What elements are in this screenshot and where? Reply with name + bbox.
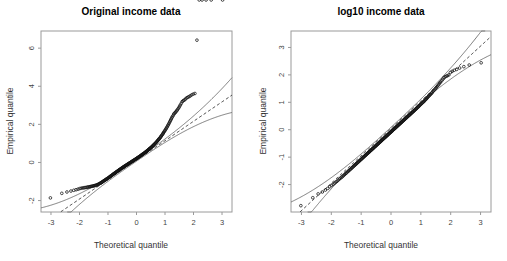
panel-log10-income-ytick-label: 1 [277, 100, 286, 104]
panel-original-income-ytick-label: 2 [27, 122, 36, 126]
panel-log10-income-xlabel: Theoretical quantile [344, 240, 418, 250]
panel-original-income-xtick-label: -2 [76, 218, 83, 227]
panel-original-income: Original income data Theoretical quantil… [0, 0, 253, 261]
panel-original-income-svg: Original income data Theoretical quantil… [0, 0, 253, 261]
panel-log10-income-xtick-label: -3 [298, 218, 305, 227]
panel-original-income-data-point [49, 197, 52, 200]
panel-log10-income-data-point [317, 193, 320, 196]
panel-log10-income-data-point [458, 67, 461, 70]
panel-original-income-xtick-label: 2 [191, 218, 195, 227]
panel-log10-income-ytick-label: 2 [277, 73, 286, 77]
panel-log10-income-svg: log10 income data Theoretical quantile E… [253, 0, 506, 261]
panel-log10-income-ytick-label: 0 [277, 128, 286, 132]
panel-original-income-data-point [66, 191, 69, 194]
panel-original-income-ytick-label: -2 [27, 197, 36, 204]
panel-original-income-plot-frame [41, 31, 232, 212]
panel-original-income-points [49, 0, 224, 199]
panel-log10-income-xtick-label: 1 [419, 218, 423, 227]
panel-original-income-xtick-label: -1 [105, 218, 112, 227]
panel-log10-income-xtick-label: 2 [449, 218, 453, 227]
panel-original-income-confidence-curve [67, 112, 232, 212]
panel-log10-income-data-point [480, 61, 483, 64]
panel-original-income-xtick-label: 0 [134, 218, 138, 227]
panel-original-income-ylabel: Empirical quantile [5, 87, 15, 154]
panel-log10-income: log10 income data Theoretical quantile E… [253, 0, 506, 261]
panel-original-income-ytick-label: 4 [27, 84, 36, 88]
panel-original-income-title: Original income data [82, 6, 181, 17]
panel-original-income-confidence-curve [41, 78, 232, 208]
panel-log10-income-data-point [300, 204, 303, 207]
panel-original-income-data-point [198, 0, 201, 1]
panel-original-income-xtick-label: -3 [48, 218, 55, 227]
panel-log10-income-data-point [462, 65, 465, 68]
panel-original-income-data-point [60, 192, 63, 195]
panel-original-income-xtick-label: 3 [220, 218, 224, 227]
panel-original-income-data-point [201, 0, 204, 1]
panel-log10-income-data-point [468, 64, 471, 67]
panel-log10-income-band [291, 31, 491, 212]
panel-log10-income-xtick-label: 3 [478, 218, 482, 227]
qq-plot-figure: Original income data Theoretical quantil… [0, 0, 507, 261]
panel-original-income-data-point [205, 0, 208, 1]
panel-original-income-xlabel: Theoretical quantile [94, 240, 168, 250]
panel-log10-income-xtick-label: -1 [358, 218, 365, 227]
panel-log10-income-title: log10 income data [337, 6, 425, 17]
panel-log10-income-ytick-label: 3 [277, 45, 286, 49]
panel-log10-income-axes: -3-2-10123-2-10123 [277, 31, 491, 227]
panel-log10-income-xtick-label: 0 [389, 218, 393, 227]
panel-original-income-axes: -3-2-10123-20246 [27, 31, 232, 227]
panel-log10-income-ytick-label: -1 [277, 154, 286, 161]
panel-original-income-ytick-label: 0 [27, 160, 36, 164]
panel-original-income-data-point [210, 0, 213, 1]
panel-original-income-data-point [70, 190, 73, 193]
panel-log10-income-data-point [311, 196, 314, 199]
panel-original-income-data-point [194, 92, 197, 95]
panel-log10-income-points [300, 61, 483, 207]
panel-log10-income-confidence-curve [308, 55, 491, 212]
panel-original-income-data-point [196, 39, 199, 42]
panel-log10-income-ytick-label: -2 [277, 181, 286, 188]
panel-original-income-ytick-label: 6 [27, 46, 36, 50]
panel-original-income-data-point [221, 0, 224, 1]
panel-log10-income-xtick-label: -2 [328, 218, 335, 227]
panel-log10-income-ylabel: Empirical quantile [258, 87, 268, 154]
panel-original-income-xtick-label: 1 [163, 218, 167, 227]
panel-log10-income-confidence-curve [291, 31, 485, 202]
